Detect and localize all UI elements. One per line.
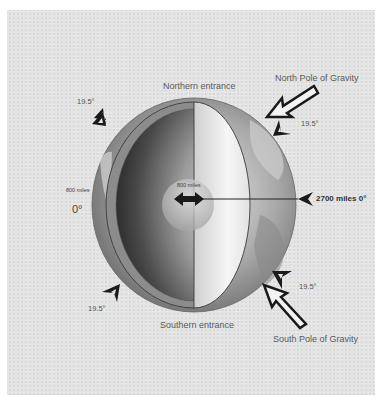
angle-label-top-left: 19.5° xyxy=(77,98,95,106)
core-diameter-label: 800 miles xyxy=(177,183,201,189)
equator-degree-label: 0° xyxy=(72,204,83,215)
angle-label-bottom-right: 19.5° xyxy=(299,283,317,291)
north-pole-gravity-label: North Pole of Gravity xyxy=(275,74,359,83)
triangle-marker-icon-top-right xyxy=(273,120,291,136)
northern-entrance-label: Northern entrance xyxy=(163,82,236,91)
south-gravity-arrow-icon xyxy=(264,285,306,328)
angle-label-bottom-left: 19.5° xyxy=(88,305,106,313)
south-pole-gravity-label: South Pole of Gravity xyxy=(273,335,358,344)
radius-label: 2700 miles 0° xyxy=(316,195,366,203)
triangle-marker-icon-top-left xyxy=(92,108,106,126)
north-gravity-arrow-icon xyxy=(267,86,318,117)
southern-entrance-label: Southern entrance xyxy=(160,321,234,330)
shell-thickness-label: 800 miles xyxy=(66,188,90,194)
triangle-marker-icon-bottom-right xyxy=(272,271,292,289)
angle-label-top-right: 19.5° xyxy=(301,120,319,128)
radius-pointer-icon xyxy=(298,192,313,206)
triangle-marker-icon-bottom-left xyxy=(102,284,120,302)
